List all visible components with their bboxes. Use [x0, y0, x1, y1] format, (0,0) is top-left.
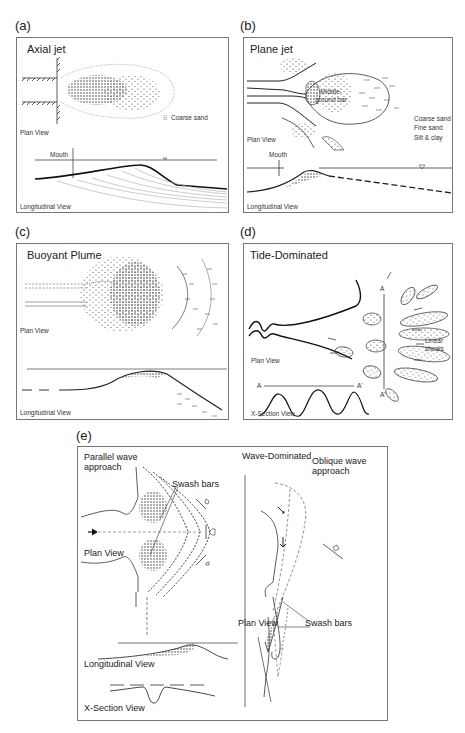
panel-d-plan-view-label: Plan View [251, 357, 280, 364]
panel-a-label: (a) [15, 18, 31, 33]
panel-a-plan-view-label: Plan View [20, 129, 49, 136]
panel-e-swash-bars-left: Swash bars [172, 479, 219, 489]
panel-b-plan-view-label: Plan View [247, 136, 276, 143]
panel-d-xsection-a-prime: A' [357, 382, 363, 389]
panel-a-longitudinal-view-label: Longitudinal View [20, 203, 71, 210]
panel-b-legend-silt-clay: Silt & clay [414, 134, 443, 141]
panel-b-label: (b) [240, 18, 256, 33]
panel-c-longitudinal-view-label: Longitudinal View [20, 409, 71, 416]
panel-b-mouth-label: Mouth [269, 151, 287, 158]
panel-a-mouth-label: Mouth [50, 151, 68, 158]
panel-b-legend-coarse-sand: Coarse sand [414, 115, 451, 122]
panel-e-right-heading-1: Oblique wave [312, 456, 367, 466]
panel-b-longitudinal-view-label: Longitudinal View [247, 203, 298, 210]
panel-e-longitudinal-view-label: Longitudinal View [84, 659, 154, 669]
panel-e-label: (e) [76, 428, 92, 443]
panel-d-section-a-top: A [380, 285, 384, 292]
panel-e-title: Wave-Dominated [242, 451, 311, 461]
panel-b-frame: Plane jet Middle-ground bar Coarse sand … [243, 37, 453, 213]
panel-e-drawing [78, 447, 389, 722]
panel-a-drawing [17, 38, 230, 214]
panel-b-bar-label: Middle-ground bar [312, 88, 350, 104]
panel-d-shoals-label-1: Linear [425, 337, 443, 344]
panel-e-left-heading-1: Parallel wave [84, 452, 138, 462]
panel-c-plan-view-label: Plan View [20, 327, 49, 334]
panel-d-frame: Tide-Dominated Linear shoals A A' A A' [243, 243, 453, 420]
panel-a-legend-dots-icon: ⁝⁝ [163, 114, 167, 122]
panel-d-xsection-view-label: X-Section View [251, 410, 295, 417]
panel-b-legend-fine-sand: Fine sand [414, 124, 443, 131]
panel-a-frame: Axial jet [16, 37, 229, 213]
panel-d-xsection-a: A [257, 382, 261, 389]
panel-d-shoals-label-2: shoals [425, 345, 444, 352]
panel-d-drawing [244, 244, 454, 421]
panel-e-frame: Wave-Dominated Parallel wave approach Ob… [77, 446, 388, 721]
panel-c-label: (c) [15, 224, 30, 239]
panel-a-legend-coarse-sand: Coarse sand [171, 114, 208, 121]
panel-e-plan-view-right: Plan View [238, 618, 278, 628]
panel-d-section-a-prime-bottom: A' [380, 391, 386, 398]
panel-e-xsection-view-label: X-Section View [84, 703, 145, 713]
panel-c-frame: Buoyant Plume Plan View Longitudinal Vie… [16, 243, 229, 420]
panel-d-label: (d) [240, 224, 256, 239]
panel-e-plan-view-left: Plan View [84, 548, 124, 558]
panel-e-swash-bars-right: Swash bars [305, 618, 352, 628]
panel-e-left-heading-2: approach [84, 462, 122, 472]
panel-e-right-heading-2: approach [312, 466, 350, 476]
